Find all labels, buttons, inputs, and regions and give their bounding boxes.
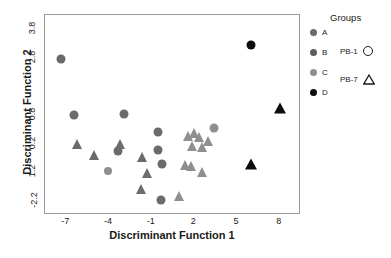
data-point-circle [104, 167, 112, 175]
data-point-triangle [174, 191, 184, 201]
data-point-triangle [203, 136, 213, 146]
data-points-layer [45, 15, 299, 213]
legend-item-c[interactable]: C [310, 68, 328, 77]
data-point-triangle [186, 161, 196, 171]
legend-item-a[interactable]: A [310, 28, 327, 37]
data-point-triangle [274, 102, 286, 113]
scatter-plot-figure: -7-4-1258 3.82.80.80.21.2-2.2 Discrimina… [0, 0, 391, 258]
shape-legend-item-pb-1[interactable]: PB-1 [340, 46, 373, 56]
legend-circle-icon [310, 89, 317, 96]
data-point-circle [57, 54, 66, 63]
legend-item-d[interactable]: D [310, 88, 328, 97]
data-point-triangle [72, 139, 82, 149]
legend-circle-icon [310, 29, 317, 36]
data-point-triangle [137, 152, 147, 162]
legend-item-label: C [322, 68, 328, 77]
legend-item-b[interactable]: B [310, 48, 327, 57]
data-point-circle [209, 123, 218, 132]
legend-item-label: B [322, 48, 327, 57]
data-point-triangle [136, 184, 146, 194]
x-tick-label: -7 [61, 216, 69, 226]
x-tick-label: -4 [104, 216, 112, 226]
data-point-circle [156, 196, 165, 205]
x-tick-label: 5 [233, 216, 238, 226]
open-triangle-icon [363, 74, 375, 85]
shape-legend-item-pb-7[interactable]: PB-7 [340, 74, 375, 85]
data-point-circle [119, 110, 128, 119]
open-circle-icon [363, 46, 373, 56]
legend-title: Groups [330, 12, 361, 23]
x-tick-label: 8 [276, 216, 281, 226]
data-point-circle [246, 41, 255, 50]
data-point-circle [158, 160, 167, 169]
data-point-triangle [187, 141, 197, 151]
data-point-triangle [197, 167, 207, 177]
legend-item-label: D [322, 88, 328, 97]
shape-legend-label: PB-1 [340, 47, 358, 56]
legend-circle-icon [310, 69, 317, 76]
data-point-circle [154, 145, 163, 154]
x-axis-title: Discriminant Function 1 [44, 229, 300, 241]
data-point-triangle [89, 150, 99, 160]
shape-legend-label: PB-7 [340, 75, 358, 84]
data-point-circle [154, 128, 163, 137]
data-point-circle [70, 111, 79, 120]
data-point-circle [114, 147, 123, 156]
x-tick-label: 2 [191, 216, 196, 226]
y-axis-title: Discriminant Function 2 [21, 32, 33, 192]
plot-area [44, 14, 300, 214]
data-point-triangle [142, 168, 152, 178]
data-point-triangle [245, 159, 257, 170]
legend-circle-icon [310, 49, 317, 56]
legend-item-label: A [322, 28, 327, 37]
x-tick-label: -1 [147, 216, 155, 226]
y-tick-label: -2.2 [29, 192, 39, 208]
